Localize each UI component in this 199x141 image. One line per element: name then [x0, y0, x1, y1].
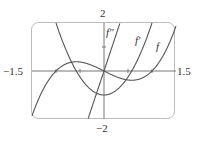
y-min-label: −2	[96, 122, 108, 134]
f-double-prime-label: f″	[106, 26, 114, 38]
f-prime-label: f′	[135, 34, 141, 46]
chart: −1.5 1.5 2 −2 f″ f′ f	[0, 0, 199, 141]
x-max-label: 1.5	[177, 65, 191, 77]
f-label: f	[156, 40, 161, 52]
x-min-label: −1.5	[3, 65, 23, 77]
y-max-label: 2	[100, 7, 106, 19]
